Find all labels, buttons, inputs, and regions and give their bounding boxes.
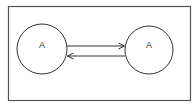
- node-left-label: A: [39, 40, 45, 50]
- diagram-canvas: A A: [0, 0, 194, 105]
- node-left[interactable]: A: [17, 24, 67, 74]
- node-right[interactable]: A: [125, 26, 173, 74]
- node-right-label: A: [146, 40, 152, 50]
- node-right-circle: [125, 26, 173, 74]
